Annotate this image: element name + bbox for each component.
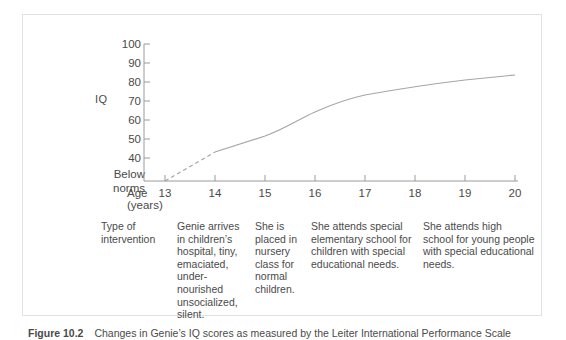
x-tick-label: 16 bbox=[303, 187, 327, 199]
annotation-age-16-17: She attends special elementary school fo… bbox=[311, 220, 423, 270]
x-axis-title-text: Age bbox=[127, 187, 163, 199]
annotation-type-of-intervention: Type of intervention bbox=[101, 220, 177, 245]
annotation-age-15: She is placed in nursery class for norma… bbox=[255, 220, 311, 296]
y-axis-ticks bbox=[144, 44, 150, 158]
annotation-age-18-20: She attends high school for young people… bbox=[423, 220, 541, 270]
data-line-solid-segment bbox=[215, 75, 515, 152]
x-tick-label: 19 bbox=[453, 187, 477, 199]
figure-caption-text: Changes in Genie’s IQ scores as measured… bbox=[94, 327, 511, 339]
data-line-dashed-segment bbox=[165, 152, 215, 181]
x-axis-title-unit: (years) bbox=[127, 199, 163, 211]
annotation-age-13: Genie arrives in children’s hospital, ti… bbox=[177, 220, 255, 321]
x-tick-label: 14 bbox=[203, 187, 227, 199]
figure-caption-number: Figure 10.2 bbox=[28, 327, 83, 339]
figure-caption: Figure 10.2 Changes in Genie’s IQ scores… bbox=[28, 327, 558, 340]
x-axis-ticks bbox=[165, 175, 515, 181]
annotation-row: Type of intervention Genie arrives in ch… bbox=[23, 220, 543, 321]
x-axis-title: Age (years) bbox=[127, 187, 163, 211]
x-tick-label: 17 bbox=[353, 187, 377, 199]
chart-plot-area: IQ 100 90 80 70 60 50 40 Below norms bbox=[23, 15, 543, 205]
x-tick-label: 15 bbox=[253, 187, 277, 199]
x-tick-label: 18 bbox=[403, 187, 427, 199]
x-tick-label: 20 bbox=[503, 187, 527, 199]
chart-svg bbox=[23, 15, 543, 210]
figure-panel: IQ 100 90 80 70 60 50 40 Below norms bbox=[22, 14, 542, 316]
